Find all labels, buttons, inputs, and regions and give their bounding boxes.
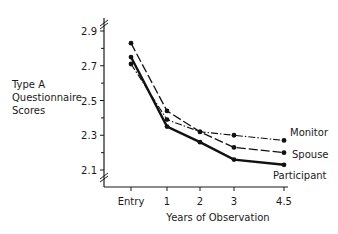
- data-point: [165, 109, 170, 114]
- y-tick-label: 2.7: [81, 61, 97, 72]
- data-point: [232, 145, 237, 150]
- series-label-spouse: Spouse: [292, 149, 329, 160]
- x-ticks: Entry1234.5: [118, 187, 292, 207]
- data-point: [198, 129, 203, 134]
- data-point: [282, 162, 287, 167]
- y-tick-label: 2.5: [81, 96, 97, 107]
- y-ticks: 2.92.72.52.32.1: [81, 26, 104, 176]
- x-tick-label: Entry: [118, 196, 145, 207]
- series-label-monitor: Monitor: [290, 127, 329, 138]
- data-point: [232, 133, 237, 138]
- x-tick-label: 4.5: [276, 196, 292, 207]
- x-tick-label: 3: [231, 196, 237, 207]
- x-tick-label: 1: [164, 196, 170, 207]
- series-line-participant: [131, 57, 284, 165]
- data-point: [198, 140, 203, 145]
- data-point: [129, 41, 134, 46]
- data-point: [165, 124, 170, 129]
- data-point: [282, 138, 287, 143]
- series-label-participant: Participant: [273, 170, 327, 181]
- y-tick-label: 2.9: [81, 26, 97, 37]
- series-lines: [129, 41, 287, 167]
- x-axis-label: Years of Observation: [165, 212, 269, 223]
- data-point: [129, 55, 134, 60]
- line-chart: 2.92.72.52.32.1 Entry1234.5 MonitorSpous…: [0, 0, 338, 234]
- data-point: [232, 157, 237, 162]
- y-tick-label: 2.1: [81, 165, 97, 176]
- data-point: [282, 150, 287, 155]
- x-tick-label: 2: [197, 196, 203, 207]
- y-tick-label: 2.3: [81, 130, 97, 141]
- series-labels: MonitorSpouseParticipant: [273, 127, 329, 181]
- series-line-spouse: [131, 43, 284, 152]
- y-axis-label: Type AQuestionnaireScores: [11, 79, 82, 116]
